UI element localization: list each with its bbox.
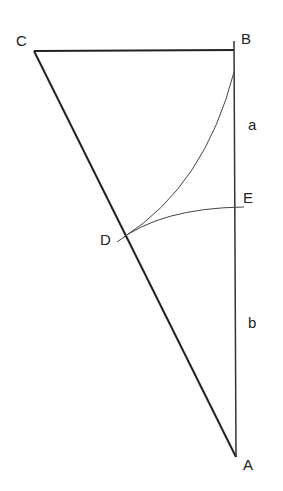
- label-a: A: [243, 456, 253, 473]
- label-e: E: [243, 189, 253, 206]
- segment-ca: [34, 51, 236, 457]
- arc-bd: [124, 72, 234, 237]
- label-a-segment: a: [248, 116, 257, 133]
- label-b-segment: b: [248, 314, 256, 331]
- label-b: B: [241, 30, 251, 47]
- label-d: D: [100, 231, 111, 248]
- arc-de: [117, 207, 244, 242]
- segment-cb: [34, 50, 234, 51]
- segment-ba: [234, 41, 236, 457]
- label-c: C: [16, 32, 27, 49]
- geometry-diagram: C B a E D b A: [0, 0, 283, 491]
